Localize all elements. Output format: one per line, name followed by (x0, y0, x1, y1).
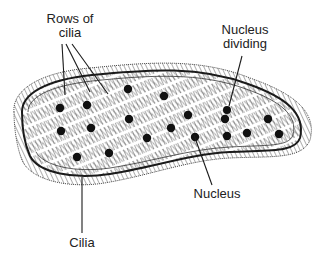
label-cilia-text: Cilia (60, 236, 104, 250)
label-cilia: Cilia (60, 236, 104, 250)
label-nucleus-text: Nucleus (187, 187, 247, 201)
label-rows-of-cilia-line1: Rows of (30, 12, 110, 26)
label-nucleus-dividing: Nucleus dividing (215, 23, 275, 51)
label-nucleus: Nucleus (187, 187, 247, 201)
label-nucleus-dividing-line1: Nucleus (215, 23, 275, 37)
label-rows-of-cilia: Rows of cilia (30, 12, 110, 40)
label-rows-of-cilia-line2: cilia (30, 26, 110, 40)
label-nucleus-dividing-line2: dividing (215, 37, 275, 51)
